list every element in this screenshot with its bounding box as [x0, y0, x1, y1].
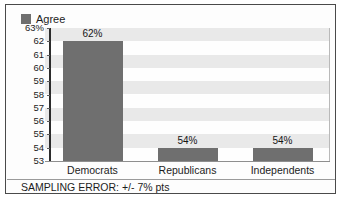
- sampling-error-note: SAMPLING ERROR: +/- 7% pts: [21, 181, 170, 194]
- chart-frame: Agree 62%54%54% 5354555657585960616263% …: [5, 4, 336, 194]
- bar-democrats[interactable]: [63, 41, 123, 161]
- y-axis-tick-label: 61: [14, 50, 44, 60]
- y-axis-tick-label: 60: [14, 63, 44, 73]
- category-label-independents: Independents: [233, 164, 333, 177]
- y-axis-tick-label: 55: [14, 129, 44, 139]
- y-axis-tick-label: 54: [14, 143, 44, 153]
- y-axis-tick-label: 63%: [14, 23, 44, 33]
- y-axis-tick-label: 59: [14, 76, 44, 86]
- y-axis-tick-mark: [47, 81, 50, 82]
- y-axis-labels: 5354555657585960616263%: [10, 28, 44, 162]
- y-axis-tick-mark: [47, 68, 50, 69]
- bar-independents[interactable]: [253, 148, 313, 161]
- y-axis-tick-label: 62: [14, 36, 44, 46]
- y-axis-tick-label: 53: [14, 156, 44, 166]
- bar-value-label: 54%: [158, 135, 218, 146]
- category-label-republicans: Republicans: [138, 164, 238, 177]
- y-axis-tick-mark: [47, 121, 50, 122]
- y-axis-tick-mark: [47, 108, 50, 109]
- y-axis-tick-mark: [47, 28, 50, 29]
- y-axis-tick-mark: [47, 95, 50, 96]
- bar-value-label: 54%: [253, 135, 313, 146]
- y-axis-tick-mark: [47, 148, 50, 149]
- footer-divider: [7, 179, 336, 180]
- x-axis-baseline: [45, 161, 330, 162]
- bar-value-label: 62%: [63, 28, 123, 39]
- y-axis-tick-label: 57: [14, 103, 44, 113]
- y-axis-tick-label: 58: [14, 90, 44, 100]
- y-axis-tick-mark: [47, 55, 50, 56]
- y-axis-tick-label: 56: [14, 116, 44, 126]
- x-axis-category-labels: DemocratsRepublicansIndependents: [45, 163, 330, 179]
- y-axis-tick-mark: [47, 41, 50, 42]
- category-label-democrats: Democrats: [43, 164, 143, 177]
- bar-republicans[interactable]: [158, 148, 218, 161]
- plot-area: 62%54%54%: [45, 28, 330, 161]
- y-axis-tick-mark: [47, 134, 50, 135]
